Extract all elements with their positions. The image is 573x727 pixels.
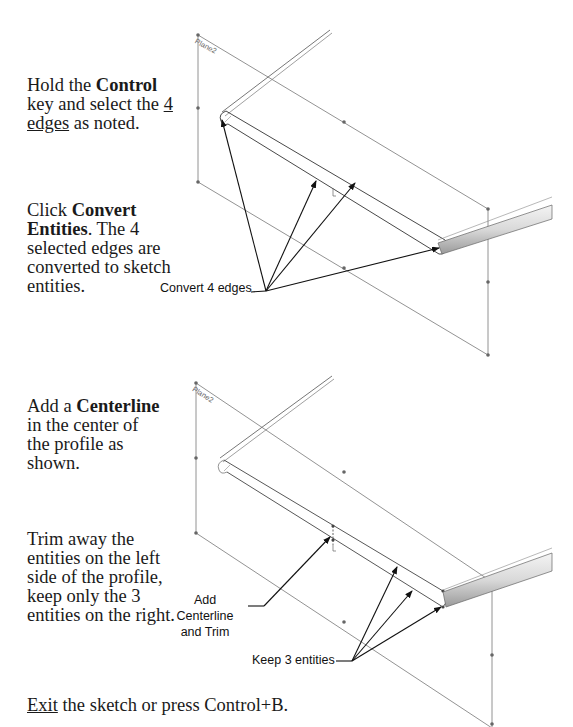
top-figure [196, 30, 552, 357]
tutorial-page: Hold the Control key and select the 4 ed… [0, 0, 573, 727]
profile-slot [220, 111, 448, 254]
convert-edges-arrows [222, 120, 439, 292]
sketch-figures [0, 0, 573, 727]
keep-entities-callout: Keep 3 entities [252, 652, 335, 668]
plane2-outline-bottom [196, 383, 492, 727]
profile-slot-trimmed [218, 460, 447, 607]
centerline-arrow [248, 537, 330, 606]
sweep-tube-right [438, 197, 552, 254]
sweep-rail-upper [222, 30, 332, 116]
add-centerline-callout-line1: Add Centerline [164, 592, 246, 624]
sweep-tube-right-bottom [443, 548, 552, 607]
add-centerline-callout-line2: and Trim [164, 624, 246, 640]
sweep-rail-upper-bottom [220, 376, 334, 462]
convert-edges-callout: Convert 4 edges [160, 280, 252, 296]
plane-handles-bottom [194, 381, 494, 726]
add-centerline-callout: Add Centerline and Trim [164, 592, 246, 640]
keep-entities-arrows [336, 567, 441, 661]
bottom-figure [194, 376, 552, 727]
